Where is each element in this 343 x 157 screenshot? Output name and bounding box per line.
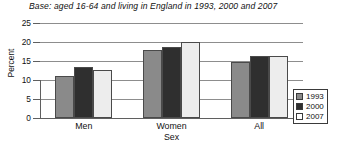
x-axis-tick-label: Women [128, 121, 216, 131]
y-axis-tick-label: 10 [22, 76, 31, 84]
legend-item[interactable]: 2007 [296, 112, 324, 121]
bar-group-men [55, 23, 112, 118]
legend-item[interactable]: 2000 [296, 102, 324, 111]
bar-all-2000[interactable] [250, 56, 269, 118]
bar-men-2007[interactable] [93, 70, 112, 118]
y-axis-tick-mark [33, 80, 40, 81]
y-axis-tick-label: 25 [22, 19, 31, 27]
bar-women-2000[interactable] [162, 47, 181, 118]
x-axis-tick-label: Men [40, 121, 128, 131]
legend-swatch-1993 [296, 93, 303, 100]
bar-men-1993[interactable] [55, 76, 74, 118]
y-axis-line [40, 80, 41, 119]
chart-legend: 1993 2000 2007 [293, 89, 328, 124]
plot-area [40, 23, 303, 118]
y-axis-tick-mark [33, 61, 40, 62]
bar-men-2000[interactable] [74, 67, 93, 118]
bar-chart: Base: aged 16-64 and living in England i… [0, 0, 343, 157]
legend-label-2000: 2000 [306, 103, 324, 111]
x-axis-line [40, 118, 303, 119]
legend-label-2007: 2007 [306, 113, 324, 121]
y-axis-tick-label: 20 [22, 38, 31, 46]
y-axis-tick-label: 15 [22, 57, 31, 65]
x-axis-tick-label: All [215, 121, 303, 131]
y-axis-tick-mark [33, 118, 40, 119]
legend-swatch-2000 [296, 103, 303, 110]
legend-swatch-2007 [296, 113, 303, 120]
bar-all-1993[interactable] [231, 62, 250, 118]
bar-group-all [231, 23, 288, 118]
x-axis-title: Sex [0, 132, 343, 142]
legend-item[interactable]: 1993 [296, 92, 324, 101]
bar-group-women [143, 23, 200, 118]
y-axis-tick-mark [33, 99, 40, 100]
y-axis-tick-label: 0 [26, 114, 31, 122]
y-axis-ticks: 0510152025 [0, 23, 40, 118]
bar-all-2007[interactable] [269, 56, 288, 118]
y-axis-tick-mark [33, 42, 40, 43]
y-axis-tick-label: 5 [26, 95, 31, 103]
chart-title: Base: aged 16-64 and living in England i… [29, 1, 277, 11]
y-axis-tick-mark [33, 23, 40, 24]
bar-women-2007[interactable] [181, 42, 200, 118]
bar-women-1993[interactable] [143, 50, 162, 118]
legend-label-1993: 1993 [306, 93, 324, 101]
